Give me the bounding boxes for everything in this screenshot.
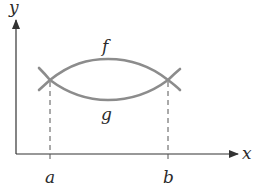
y-axis-label: y	[8, 0, 19, 17]
marker-a-label: a	[45, 167, 55, 187]
area-between-curves-diagram: y x f g a b	[0, 0, 263, 194]
curve-g-label: g	[101, 104, 112, 124]
x-axis-label: x	[242, 143, 252, 163]
curve-f-label: f	[100, 36, 111, 56]
marker-b-label: b	[163, 167, 174, 187]
